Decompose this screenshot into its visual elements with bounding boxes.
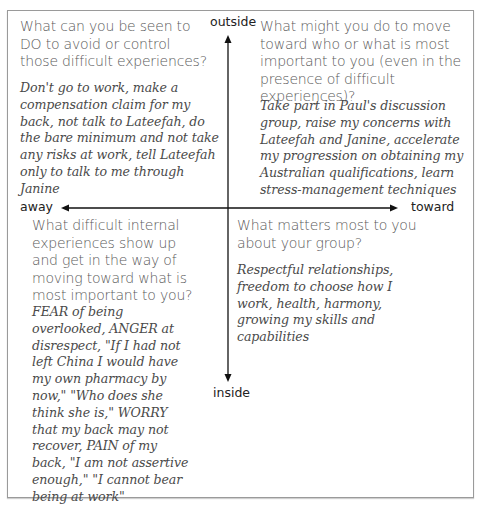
quadrant-bottom-left-answer: FEAR of being overlooked, ANGER at disre…: [32, 304, 192, 506]
quadrant-bottom-right-question: What matters most to you about your grou…: [237, 217, 437, 252]
axis-label-toward: toward: [411, 200, 454, 214]
quadrant-top-left-answer: Don't go to work, make a compensation cl…: [20, 80, 220, 198]
quadrant-top-right-answer: Take part in Paul's discussion group, ra…: [260, 98, 470, 199]
arrow-up-icon: [225, 35, 232, 43]
quadrant-bottom-left-question: What difficult internal experiences show…: [32, 217, 202, 305]
axis-label-away: away: [20, 200, 53, 214]
arrow-down-icon: [225, 374, 232, 382]
arrow-left-icon: [61, 205, 69, 212]
quadrant-top-left-question: What can you be seen to DO to avoid or c…: [20, 18, 208, 71]
axis-label-outside: outside: [210, 15, 256, 29]
quadrant-bottom-right-answer: Respectful relationships, freedom to cho…: [237, 262, 427, 346]
axis-label-inside: inside: [213, 386, 250, 400]
quadrant-top-right-question: What might you do to move toward who or …: [260, 18, 465, 106]
arrow-right-icon: [390, 205, 398, 212]
